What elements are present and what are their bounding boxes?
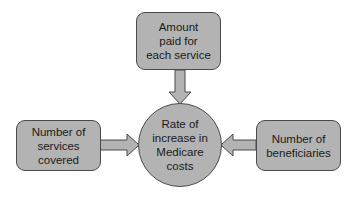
node-amount-paid: Amount paid for each service (136, 12, 221, 70)
arrow-right-to-center (221, 134, 256, 156)
node-services-covered: Number of services covered (16, 120, 101, 171)
node-beneficiaries-label: Number of beneficiaries (266, 132, 331, 160)
arrow-top-to-center (169, 70, 191, 104)
arrow-left-to-center (100, 134, 139, 156)
node-medicare-cost-increase: Rate of increase in Medicare costs (138, 103, 222, 187)
node-amount-paid-label: Amount paid for each service (146, 20, 211, 62)
node-services-covered-label: Number of services covered (32, 125, 86, 167)
node-medicare-cost-increase-label: Rate of increase in Medicare costs (152, 117, 208, 173)
node-beneficiaries: Number of beneficiaries (256, 120, 341, 171)
